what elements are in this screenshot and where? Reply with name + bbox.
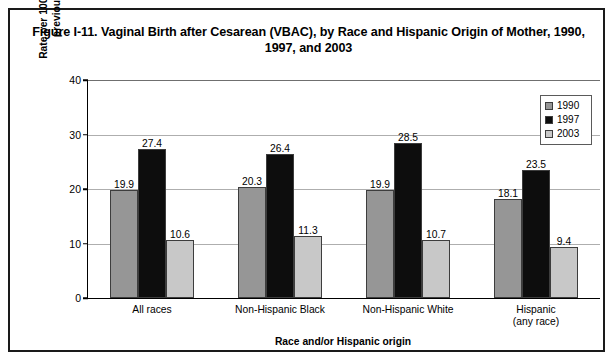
gridline bbox=[88, 135, 600, 136]
bar-value-label: 19.9 bbox=[114, 179, 134, 190]
legend-swatch-icon bbox=[545, 116, 553, 124]
bar-value-label: 26.4 bbox=[270, 143, 290, 154]
bar-2003-non-hispanic-black: 11.3 bbox=[294, 236, 322, 298]
x-axis-category-line: (any race) bbox=[513, 316, 559, 327]
bar-value-label: 18.1 bbox=[498, 188, 518, 199]
legend-item-1990: 1990 bbox=[545, 99, 587, 113]
legend-label: 1997 bbox=[557, 115, 579, 125]
bar-value-label: 23.5 bbox=[526, 159, 546, 170]
plot-area: 01020304019.927.410.6All races20.326.411… bbox=[87, 80, 600, 299]
x-axis-category-label: Non-Hispanic White bbox=[363, 304, 454, 316]
y-axis-tick-label: 10 bbox=[69, 238, 81, 250]
bar-1997-non-hispanic-white: 28.5 bbox=[394, 143, 422, 298]
bar-2003-hispanic-any-race: 9.4 bbox=[550, 247, 578, 298]
y-axis-tick-mark bbox=[83, 297, 88, 299]
bar-value-label: 27.4 bbox=[142, 138, 162, 149]
legend-label: 2003 bbox=[557, 129, 579, 139]
bar-1997-all-races: 27.4 bbox=[138, 149, 166, 298]
bar-2003-non-hispanic-white: 10.7 bbox=[422, 240, 450, 298]
x-axis-category-label: All races bbox=[132, 304, 171, 316]
y-axis-tick-mark bbox=[83, 79, 88, 81]
x-axis-category-line: Hispanic bbox=[516, 304, 556, 315]
legend-swatch-icon bbox=[545, 102, 553, 110]
bar-value-label: 11.3 bbox=[298, 225, 317, 236]
chart-legend: 199019972003 bbox=[540, 95, 592, 145]
bar-value-label: 10.7 bbox=[426, 229, 446, 240]
bar-1990-non-hispanic-black: 20.3 bbox=[238, 187, 266, 298]
y-axis-tick-label: 30 bbox=[69, 129, 81, 141]
chart-title: Figure I-11. Vaginal Birth after Cesarea… bbox=[30, 24, 587, 56]
x-axis-category-line: Non-Hispanic White bbox=[363, 304, 454, 315]
legend-swatch-icon bbox=[545, 130, 553, 138]
x-axis-category-line: All races bbox=[132, 304, 171, 315]
legend-item-1997: 1997 bbox=[545, 113, 587, 127]
bar-1990-hispanic-any-race: 18.1 bbox=[494, 199, 522, 298]
y-axis-tick-mark bbox=[83, 188, 88, 190]
y-axis-tick-label: 40 bbox=[69, 74, 81, 86]
legend-item-2003: 2003 bbox=[545, 127, 587, 141]
bar-value-label: 19.9 bbox=[370, 179, 390, 190]
bar-1997-non-hispanic-black: 26.4 bbox=[266, 154, 294, 298]
bar-1990-all-races: 19.9 bbox=[110, 190, 138, 298]
x-axis-category-label: Non-Hispanic Black bbox=[235, 304, 325, 316]
y-axis-tick-mark bbox=[83, 134, 88, 136]
x-axis-category-line: Non-Hispanic Black bbox=[235, 304, 325, 315]
bar-value-label: 9.4 bbox=[557, 236, 571, 247]
bar-value-label: 28.5 bbox=[398, 132, 418, 143]
gridline bbox=[88, 80, 600, 81]
legend-label: 1990 bbox=[557, 101, 579, 111]
bar-value-label: 10.6 bbox=[170, 229, 190, 240]
figure-frame: Figure I-11. Vaginal Birth after Cesarea… bbox=[8, 8, 605, 352]
y-axis-tick-label: 0 bbox=[75, 292, 81, 304]
x-axis-category-label: Hispanic(any race) bbox=[513, 304, 559, 328]
bar-1997-hispanic-any-race: 23.5 bbox=[522, 170, 550, 298]
y-axis-tick-mark bbox=[83, 243, 88, 245]
y-axis-tick-label: 20 bbox=[69, 183, 81, 195]
bar-1990-non-hispanic-white: 19.9 bbox=[366, 190, 394, 298]
x-axis-title: Race and/or Hispanic origin bbox=[87, 336, 599, 347]
bar-2003-all-races: 10.6 bbox=[166, 240, 194, 298]
bar-value-label: 20.3 bbox=[242, 176, 262, 187]
